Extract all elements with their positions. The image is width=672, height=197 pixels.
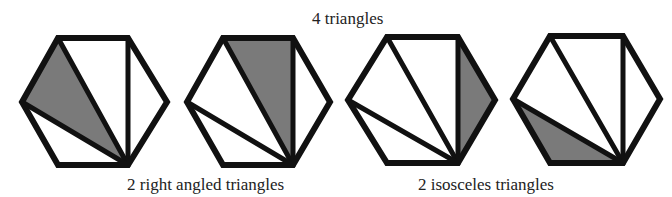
- figure-title: 4 triangles: [312, 10, 383, 27]
- caption-isosceles-triangles: 2 isosceles triangles: [418, 176, 554, 193]
- shaded-triangle: [458, 37, 495, 163]
- hexagon-1: [22, 38, 167, 165]
- caption-right-angled-triangles: 2 right angled triangles: [127, 176, 284, 193]
- hexagon-4: [513, 36, 660, 163]
- hexagon-triangulation-figure: [0, 0, 672, 197]
- hexagon-3: [348, 37, 495, 163]
- hexagon-2: [187, 38, 330, 165]
